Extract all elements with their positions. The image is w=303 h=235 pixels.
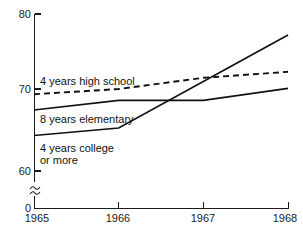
x-tick-label-1966: 1966 <box>106 212 130 224</box>
series-label-high-school: 4 years high school <box>40 75 135 87</box>
y-tick-label-60: 60 <box>19 165 31 177</box>
line-chart: 80 70 60 0 1965 1966 1967 1968 4 years h… <box>0 0 303 235</box>
series-line-elementary <box>34 88 288 110</box>
axis-break-icon-lower <box>30 192 40 195</box>
x-tick-label-1965: 1965 <box>25 212 49 224</box>
chart-figure: 80 70 60 0 1965 1966 1967 1968 4 years h… <box>0 0 303 235</box>
x-tick-label-1967: 1967 <box>191 212 215 224</box>
series-label-college-line2: or more <box>40 154 78 166</box>
y-tick-label-80: 80 <box>19 8 31 20</box>
y-tick-label-70: 70 <box>19 83 31 95</box>
x-tick-label-1968: 1968 <box>273 212 297 224</box>
series-label-college-line1: 4 years college <box>40 142 114 154</box>
axis-break-icon-upper <box>30 187 40 190</box>
series-label-elementary: 8 years elementary <box>40 113 134 125</box>
